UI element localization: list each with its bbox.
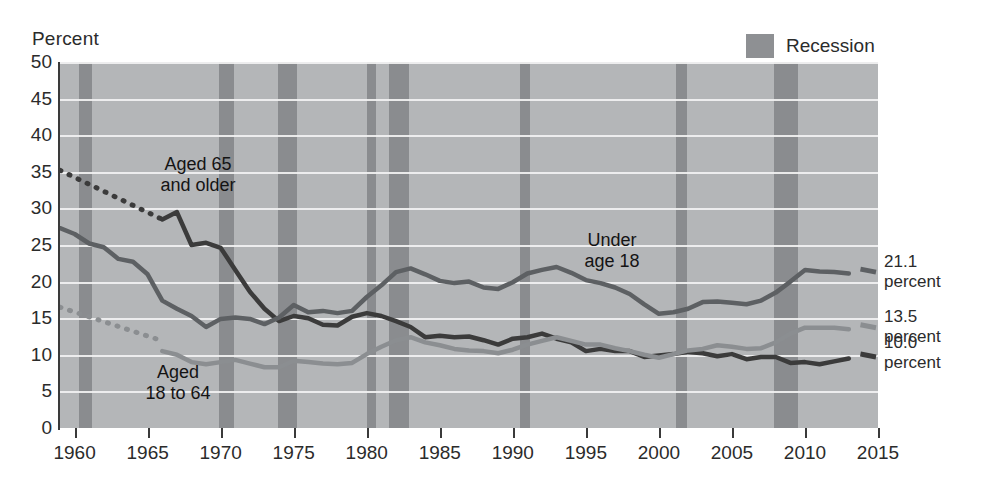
- annotation-under-18-line2: age 18: [552, 251, 672, 272]
- annotation-aged-65: Aged 65 and older: [128, 154, 268, 196]
- y-tick-label: 10: [12, 344, 52, 366]
- plot-area: Aged 65 and older Under age 18 Aged 18 t…: [60, 62, 878, 428]
- end-value-labels: 21.1percent13.5percent10.0percent: [884, 62, 987, 428]
- x-tick-mark: [878, 428, 880, 438]
- annotation-under-18: Under age 18: [552, 230, 672, 272]
- x-tick-mark: [294, 428, 296, 438]
- series-end-stub: [860, 354, 876, 357]
- y-axis-title: Percent: [32, 28, 99, 50]
- x-tick-label: 1960: [53, 442, 95, 464]
- x-tick-mark: [221, 428, 223, 438]
- recession-swatch-icon: [746, 34, 774, 58]
- y-tick-label: 5: [12, 380, 52, 402]
- y-tick-label: 25: [12, 234, 52, 256]
- y-axis-ticks: 05101520253035404550: [8, 62, 52, 428]
- x-tick-mark: [148, 428, 150, 438]
- series-line: [162, 212, 849, 364]
- x-tick-label: 1975: [273, 442, 315, 464]
- end-value-number: 21.1: [884, 252, 941, 272]
- x-axis-ticks: 1960196519701975198019851990199520002005…: [60, 428, 878, 488]
- x-tick-label: 2010: [784, 442, 826, 464]
- x-tick-label: 1965: [127, 442, 169, 464]
- end-value-unit: percent: [884, 272, 941, 292]
- x-tick-mark: [367, 428, 369, 438]
- x-tick-label: 2015: [857, 442, 899, 464]
- x-tick-label: 1990: [492, 442, 534, 464]
- annotation-aged-18-64-line2: 18 to 64: [118, 383, 238, 404]
- end-value-number: 13.5: [884, 307, 941, 327]
- annotation-aged-18-64-line1: Aged: [118, 362, 238, 383]
- x-tick-mark: [732, 428, 734, 438]
- y-tick-label: 50: [12, 51, 52, 73]
- end-value-label: 21.1percent: [884, 252, 941, 292]
- series-end-stub: [860, 325, 876, 328]
- x-tick-mark: [659, 428, 661, 438]
- y-tick-label: 30: [12, 197, 52, 219]
- end-value-number: 10.0: [884, 333, 941, 353]
- end-value-unit: percent: [884, 353, 941, 373]
- series-end-stub: [860, 269, 876, 272]
- series-line: [60, 228, 849, 327]
- annotation-aged-18-64: Aged 18 to 64: [118, 362, 238, 404]
- x-tick-mark: [75, 428, 77, 438]
- x-tick-label: 1985: [419, 442, 461, 464]
- annotation-aged-65-line2: and older: [128, 175, 268, 196]
- y-tick-label: 15: [12, 307, 52, 329]
- annotation-aged-65-line1: Aged 65: [128, 154, 268, 175]
- y-tick-label: 35: [12, 161, 52, 183]
- legend: Recession: [746, 34, 875, 58]
- x-tick-label: 2005: [711, 442, 753, 464]
- y-tick-label: 40: [12, 124, 52, 146]
- x-tick-mark: [586, 428, 588, 438]
- end-value-label: 10.0percent: [884, 333, 941, 373]
- x-tick-label: 2000: [638, 442, 680, 464]
- series-line: [60, 307, 162, 341]
- y-tick-label: 20: [12, 271, 52, 293]
- y-tick-label: 45: [12, 88, 52, 110]
- poverty-rate-chart: Percent Recession 05101520253035404550 A…: [0, 0, 987, 494]
- x-tick-mark: [805, 428, 807, 438]
- x-tick-label: 1970: [200, 442, 242, 464]
- annotation-under-18-line1: Under: [552, 230, 672, 251]
- legend-label-recession: Recession: [786, 35, 875, 57]
- x-tick-label: 1980: [346, 442, 388, 464]
- x-tick-label: 1995: [565, 442, 607, 464]
- x-tick-mark: [513, 428, 515, 438]
- x-tick-mark: [440, 428, 442, 438]
- y-tick-label: 0: [12, 417, 52, 439]
